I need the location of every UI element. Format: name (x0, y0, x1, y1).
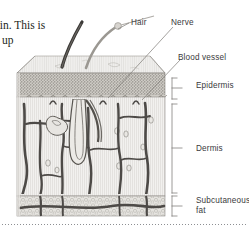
dermis-layer (17, 97, 165, 196)
label-nerve: Nerve (171, 18, 194, 28)
label-dermis: Dermis (196, 144, 223, 154)
page-canvas: kin. This is e up (0, 0, 249, 231)
epidermis-layer (17, 73, 167, 99)
label-subcutaneous-fat: Subcutaneous fat (196, 196, 249, 215)
label-blood-vessel: Blood vessel (178, 53, 226, 63)
layer-brackets (172, 78, 182, 216)
bracket-dermis (172, 104, 182, 193)
label-epidermis: Epidermis (196, 81, 234, 91)
label-hair: Hair (131, 18, 147, 28)
bracket-subcutaneous-fat (172, 196, 182, 216)
bracket-epidermis (172, 78, 182, 99)
subcutaneous-fat-layer (17, 196, 165, 216)
dotted-separator-rule (2, 224, 247, 225)
